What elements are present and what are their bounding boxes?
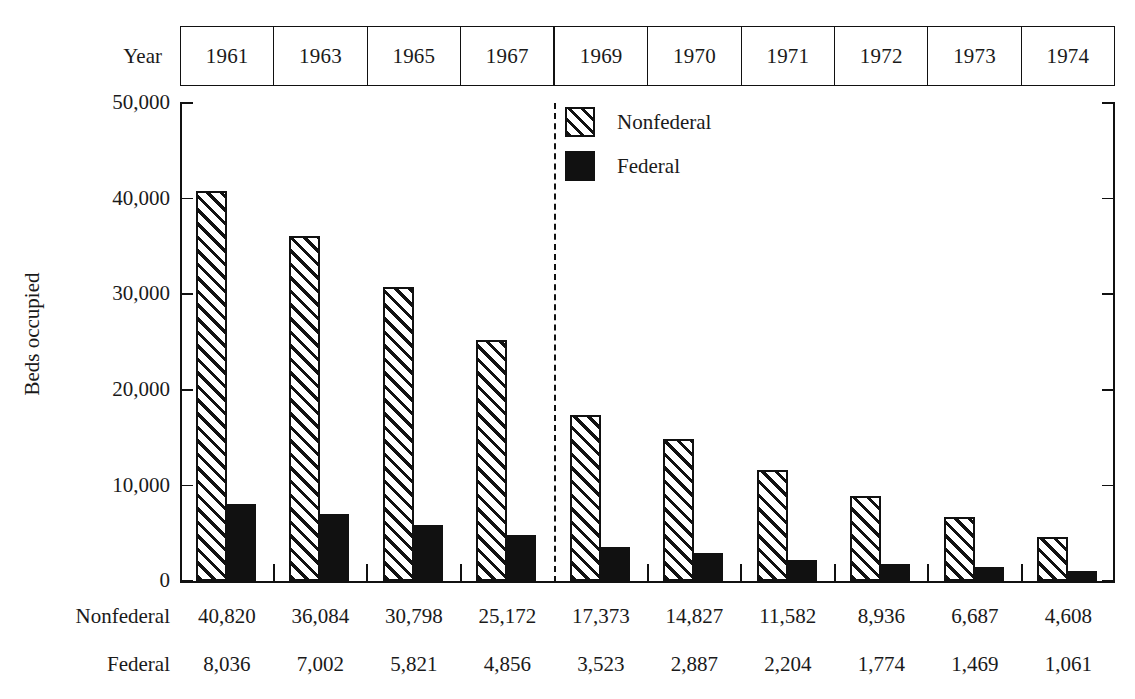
year-header-cell-1972: 1972 [835,27,928,85]
x-group-tick-1963 [273,564,275,582]
x-group-tick-1970 [647,564,649,582]
bar-nonfederal-1973 [944,517,975,581]
bar-nonfederal-1961 [196,191,227,581]
year-header-cell-1961: 1961 [181,27,274,85]
year-header-cell-1973: 1973 [928,27,1021,85]
x-group-tick-1967 [460,564,462,582]
y-tick-0: 0 [180,580,193,582]
bar-federal-1970 [692,553,723,581]
bar-nonfederal-1965 [383,287,414,581]
bar-federal-1961 [225,504,256,581]
bar-nonfederal-1970 [663,439,694,581]
data-cell-federal-1974: 1,061 [1022,644,1116,684]
data-row-federal: Federal 8,0367,0025,8214,8563,5232,8872,… [180,644,1115,684]
data-cell-federal-1969: 3,523 [554,644,648,684]
data-cell-nonfederal-1972: 8,936 [835,596,929,636]
y-axis-line-right [1113,103,1115,583]
bar-federal-1972 [879,564,910,581]
y-tick-40000: 40,000 [180,198,193,200]
bar-nonfederal-1963 [289,236,320,581]
data-cell-federal-1970: 2,887 [648,644,742,684]
chart-figure: Year 19611963196519671969197019711972197… [0,0,1135,699]
x-group-tick-1965 [366,564,368,582]
bar-federal-1963 [318,514,349,581]
legend-label-federal: Federal [617,154,680,179]
year-header-cell-1965: 1965 [368,27,461,85]
year-header-cell-1963: 1963 [274,27,367,85]
data-row-nonfederal: Nonfederal 40,82036,08430,79825,17217,37… [180,596,1115,636]
y-tick-label-20000: 20,000 [20,377,180,402]
y-tick-right-20000 [1102,389,1115,391]
data-cell-nonfederal-1963: 36,084 [274,596,368,636]
year-header-cell-1969: 1969 [553,27,648,85]
y-axis-line-left [180,103,182,583]
y-tick-label-0: 0 [20,568,180,593]
x-group-tick-1972 [834,564,836,582]
y-tick-label-50000: 50,000 [20,90,180,115]
legend-item-nonfederal: Nonfederal [565,100,711,144]
bar-nonfederal-1974 [1037,537,1068,581]
y-tick-label-30000: 30,000 [20,281,180,306]
bar-nonfederal-1972 [850,496,881,581]
period-divider-dashed-line [554,103,556,582]
data-cell-federal-1971: 2,204 [741,644,835,684]
y-tick-label-10000: 10,000 [20,472,180,497]
data-row-label-nonfederal: Nonfederal [0,596,170,636]
data-row-label-federal: Federal [0,644,170,684]
data-cell-federal-1961: 8,036 [180,644,274,684]
bar-federal-1974 [1066,571,1097,581]
y-tick-30000: 30,000 [180,293,193,295]
year-header-cell-1970: 1970 [648,27,741,85]
legend-item-federal: Federal [565,144,711,188]
y-tick-50000: 50,000 [180,102,193,104]
data-cell-nonfederal-1967: 25,172 [461,596,555,636]
data-cell-nonfederal-1969: 17,373 [554,596,648,636]
year-header-cell-1967: 1967 [461,27,554,85]
year-header-cell-1974: 1974 [1022,27,1114,85]
data-cell-nonfederal-1965: 30,798 [367,596,461,636]
y-tick-right-40000 [1102,198,1115,200]
bar-nonfederal-1969 [570,415,601,581]
data-cell-federal-1965: 5,821 [367,644,461,684]
data-cell-federal-1967: 4,856 [461,644,555,684]
year-axis-label: Year [40,26,170,86]
bar-federal-1969 [599,547,630,581]
bar-federal-1971 [786,560,817,581]
x-group-tick-1974 [1021,564,1023,582]
plot-area: Beds occupied Nonfederal Federal 50,0004… [180,86,1115,583]
data-cell-nonfederal-1974: 4,608 [1022,596,1116,636]
y-tick-right-10000 [1102,485,1115,487]
y-tick-right-30000 [1102,293,1115,295]
data-cell-nonfederal-1961: 40,820 [180,596,274,636]
y-axis-title: Beds occupied [20,204,45,464]
data-cell-federal-1963: 7,002 [274,644,368,684]
legend-label-nonfederal: Nonfederal [617,110,711,135]
data-cell-nonfederal-1970: 14,827 [648,596,742,636]
x-group-tick-1971 [740,564,742,582]
legend-swatch-federal-icon [565,151,595,181]
data-cell-federal-1973: 1,469 [928,644,1022,684]
legend-swatch-nonfederal-icon [565,107,595,137]
bar-federal-1967 [505,535,536,581]
year-header-row: 1961196319651967196919701971197219731974 [180,26,1115,86]
y-tick-right-0 [1102,580,1115,582]
y-tick-label-40000: 40,000 [20,185,180,210]
x-group-tick-1973 [927,564,929,582]
y-tick-10000: 10,000 [180,485,193,487]
y-tick-right-50000 [1102,102,1115,104]
bar-federal-1965 [412,525,443,581]
chart-legend: Nonfederal Federal [565,100,711,188]
bar-federal-1973 [973,567,1004,581]
y-tick-20000: 20,000 [180,389,193,391]
bar-nonfederal-1971 [757,470,788,581]
data-cell-federal-1972: 1,774 [835,644,929,684]
bar-nonfederal-1967 [476,340,507,581]
data-cell-nonfederal-1973: 6,687 [928,596,1022,636]
data-cell-nonfederal-1971: 11,582 [741,596,835,636]
year-header-cell-1971: 1971 [742,27,835,85]
